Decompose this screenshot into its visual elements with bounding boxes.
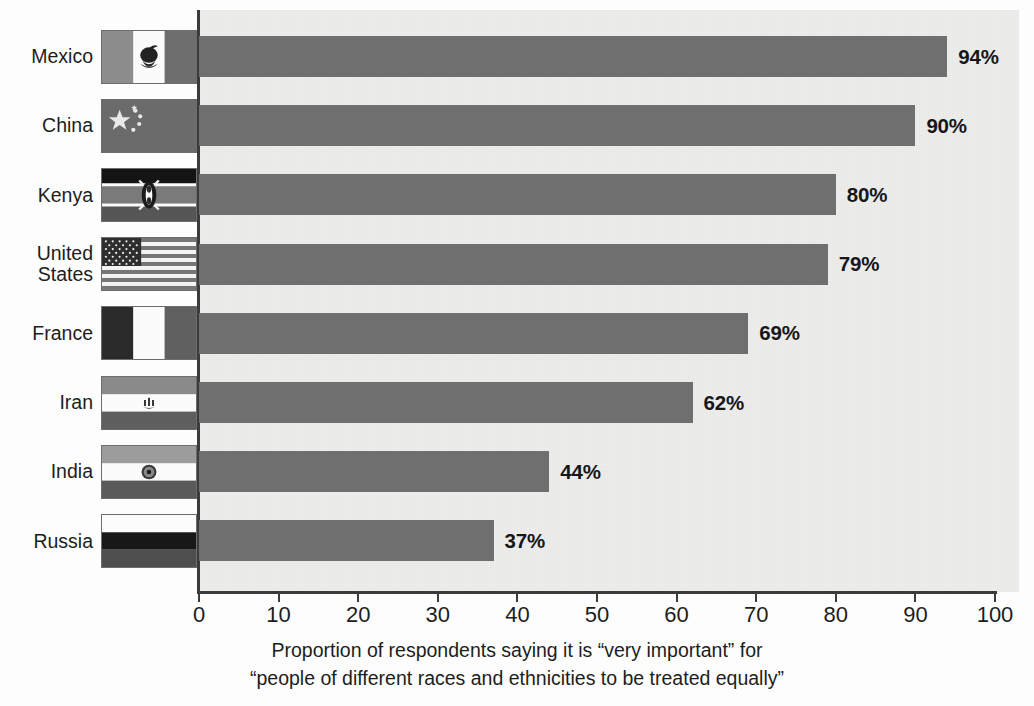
category-label: Mexico — [31, 46, 101, 67]
bar-mexico — [199, 36, 947, 77]
flag-iran-icon — [101, 376, 197, 430]
flag-france-icon — [101, 306, 197, 360]
x-axis-tick-label: 80 — [824, 602, 848, 628]
x-axis-tick — [994, 593, 996, 602]
bar-value-label: 94% — [958, 44, 998, 68]
bar-row: 94% — [199, 36, 1034, 77]
flag-russia-icon — [101, 514, 197, 568]
y-axis-line — [197, 10, 200, 594]
flag-china-icon — [101, 99, 197, 153]
x-axis-tick-label: 100 — [977, 602, 1014, 628]
x-axis-tick — [516, 593, 518, 602]
flag-kenya-icon — [101, 168, 197, 222]
flag-united-states-icon — [101, 237, 197, 291]
category-label: Iran — [59, 392, 101, 413]
x-axis-tick — [914, 593, 916, 602]
category-india: India — [0, 443, 197, 501]
bar-row: 79% — [199, 244, 1034, 285]
bar-row: 37% — [199, 520, 1034, 561]
bar-row: 90% — [199, 105, 1034, 146]
x-axis-tick — [676, 593, 678, 602]
x-axis-tick-label: 30 — [426, 602, 450, 628]
category-russia: Russia — [0, 512, 197, 570]
category-iran: Iran — [0, 374, 197, 432]
category-kenya: Kenya — [0, 166, 197, 224]
bar-value-label: 79% — [839, 252, 879, 276]
category-label: United States — [37, 243, 101, 284]
category-france: France — [0, 304, 197, 362]
x-axis-tick-label: 70 — [744, 602, 768, 628]
bar-row: 44% — [199, 451, 1034, 492]
category-label: China — [42, 115, 101, 136]
bar-value-label: 62% — [704, 390, 744, 414]
flag-india-icon — [101, 445, 197, 499]
plot-area — [199, 10, 1019, 592]
flag-mexico-icon — [101, 30, 197, 84]
category-label: France — [32, 323, 101, 344]
x-axis-tick-label: 10 — [266, 602, 290, 628]
x-axis-tick-label: 50 — [585, 602, 609, 628]
bar-value-label: 80% — [847, 182, 887, 206]
bar-india — [199, 451, 549, 492]
category-label: Russia — [33, 531, 101, 552]
bar-russia — [199, 520, 494, 561]
category-label: India — [51, 461, 101, 482]
bar-iran — [199, 382, 693, 423]
bar-value-label: 69% — [759, 321, 799, 345]
bar-united-states — [199, 244, 828, 285]
x-axis-tick — [278, 593, 280, 602]
bar-row: 80% — [199, 174, 1034, 215]
bar-france — [199, 313, 748, 354]
x-axis-tick — [596, 593, 598, 602]
bar-kenya — [199, 174, 836, 215]
x-axis-tick-label: 0 — [193, 602, 205, 628]
x-axis-tick — [755, 593, 757, 602]
x-axis-tick-label: 20 — [346, 602, 370, 628]
bar-value-label: 44% — [560, 459, 600, 483]
x-axis-tick-label: 40 — [505, 602, 529, 628]
category-label: Kenya — [38, 185, 101, 206]
category-united-states: United States — [0, 235, 197, 293]
x-axis-tick — [835, 593, 837, 602]
x-axis-tick — [357, 593, 359, 602]
chart-caption: Proportion of respondents saying it is “… — [0, 637, 1034, 692]
bar-row: 69% — [199, 313, 1034, 354]
caption-line: “people of different races and ethniciti… — [0, 665, 1034, 693]
caption-line: Proportion of respondents saying it is “… — [0, 637, 1034, 665]
bar-value-label: 37% — [505, 528, 545, 552]
category-china: China — [0, 97, 197, 155]
bar-row: 62% — [199, 382, 1034, 423]
x-axis-tick — [437, 593, 439, 602]
category-mexico: Mexico — [0, 28, 197, 86]
bar-value-label: 90% — [926, 113, 966, 137]
x-axis-tick-label: 60 — [664, 602, 688, 628]
bar-china — [199, 105, 915, 146]
x-axis-tick — [198, 593, 200, 602]
x-axis-tick-label: 90 — [903, 602, 927, 628]
bar-chart-figure: 94%90%80%79%69%62%44%37% Mexico China — [0, 0, 1034, 706]
